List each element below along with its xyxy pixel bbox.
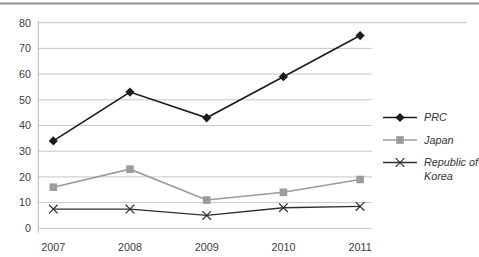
y-tick-label-80: 80 xyxy=(19,17,31,29)
chart-legend: PRCJapanRepublic ofKorea xyxy=(383,111,479,182)
legend-item-republic-of-korea: Republic ofKorea xyxy=(383,156,479,182)
legend-marker-japan xyxy=(396,136,404,144)
line-chart-figure: 0102030405060708020072008200920102011PRC… xyxy=(0,0,479,257)
y-tick-label-60: 60 xyxy=(19,68,31,80)
y-tick-label-30: 30 xyxy=(19,145,31,157)
line-chart: 0102030405060708020072008200920102011PRC… xyxy=(0,0,479,257)
y-tick-label-0: 0 xyxy=(25,222,31,234)
x-tick-label-2010: 2010 xyxy=(271,241,295,253)
legend-item-prc: PRC xyxy=(383,111,447,123)
series-line-japan xyxy=(53,169,360,200)
x-tick-label-2007: 2007 xyxy=(41,241,65,253)
marker-prc-2007 xyxy=(49,136,58,145)
y-tick-label-40: 40 xyxy=(19,119,31,131)
marker-japan-2011 xyxy=(356,176,364,184)
marker-prc-2010 xyxy=(279,72,288,81)
series-japan xyxy=(50,165,364,203)
legend-marker-prc xyxy=(395,113,404,122)
marker-prc-2011 xyxy=(356,31,365,40)
x-tick-label-2011: 2011 xyxy=(348,241,371,253)
marker-japan-2008 xyxy=(126,165,134,173)
y-tick-label-50: 50 xyxy=(19,94,31,106)
y-tick-label-10: 10 xyxy=(19,196,31,208)
marker-japan-2010 xyxy=(280,189,288,197)
legend-item-japan: Japan xyxy=(383,134,453,146)
legend-label-prc: PRC xyxy=(424,111,447,123)
x-tick-label-2008: 2008 xyxy=(118,241,142,253)
marker-prc-2009 xyxy=(202,113,211,122)
series-republic-of-korea xyxy=(49,202,364,220)
y-tick-label-70: 70 xyxy=(19,42,31,54)
marker-prc-2008 xyxy=(125,87,134,96)
legend-label-japan: Japan xyxy=(423,134,453,146)
y-tick-label-20: 20 xyxy=(19,171,31,183)
legend-label-republic-of-korea-line2: Korea xyxy=(424,170,453,182)
marker-japan-2009 xyxy=(203,196,211,204)
marker-japan-2007 xyxy=(50,183,58,191)
series-line-republic-of-korea xyxy=(53,206,360,215)
x-tick-label-2009: 2009 xyxy=(195,241,219,253)
legend-label-republic-of-korea: Republic of xyxy=(424,156,479,168)
